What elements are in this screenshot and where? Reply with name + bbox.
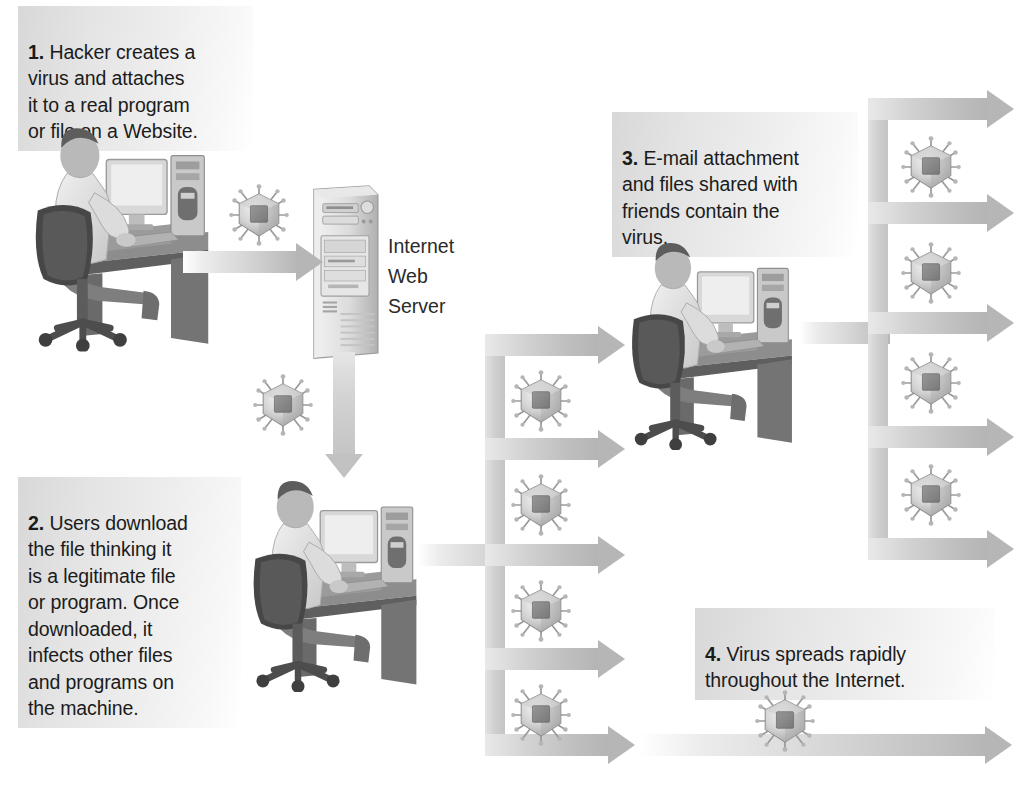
virus-middle-4	[508, 682, 574, 748]
arrow-shaft	[183, 251, 297, 273]
step-3-number: 3.	[622, 147, 638, 169]
arrow-middle-branch-1	[485, 334, 625, 356]
virus-icon	[508, 682, 574, 748]
arrow-shaft	[868, 98, 988, 120]
virus-icon	[508, 578, 574, 644]
virus-icon	[898, 134, 964, 200]
virus-server-to-downloader	[250, 372, 316, 438]
callout-step-4: 4. Virus spreads rapidly throughout the …	[695, 608, 995, 700]
virus-spread-diagram: 1. Hacker creates a virus and attaches i…	[0, 0, 1017, 800]
arrow-shaft	[333, 352, 355, 456]
arrow-right-icon	[598, 640, 625, 678]
virus-icon	[250, 372, 316, 438]
arrow-right-branch-5	[868, 538, 1014, 560]
arrow-right-branch-2	[868, 202, 1014, 224]
virus-icon	[898, 462, 964, 528]
person-at-computer-icon	[237, 470, 433, 692]
arrow-shaft	[485, 438, 599, 460]
arrow-right-icon	[598, 326, 625, 364]
virus-icon	[508, 368, 574, 434]
arrow-shaft	[485, 544, 599, 566]
step-2-number: 2.	[28, 512, 44, 534]
virus-icon	[226, 182, 292, 248]
arrow-middle-branch-4	[485, 648, 625, 670]
person-at-computer-icon	[612, 232, 812, 450]
virus-hacker-to-server	[226, 182, 292, 248]
arrow-right-icon	[598, 536, 625, 574]
arrow-internet-spread	[640, 734, 1012, 756]
arrow-right-branch-3	[868, 312, 1014, 334]
arrow-server-to-downloader	[333, 352, 355, 478]
virus-middle-2	[508, 472, 574, 538]
virus-icon	[508, 472, 574, 538]
arrow-right-icon	[296, 243, 323, 281]
arrow-shaft	[868, 312, 988, 334]
virus-icon	[898, 240, 964, 306]
workstation-hacker	[24, 116, 220, 352]
step-2-text: Users download the file thinking it is a…	[28, 512, 188, 720]
arrow-middle-branch-2	[485, 438, 625, 460]
step-1-number: 1.	[28, 41, 44, 63]
virus-right-4	[898, 462, 964, 528]
virus-right-1	[898, 134, 964, 200]
workstation-sharer	[612, 232, 812, 450]
virus-icon	[752, 688, 818, 754]
virus-middle-1	[508, 368, 574, 434]
virus-right-3	[898, 350, 964, 416]
virus-middle-3	[508, 578, 574, 644]
virus-right-2	[898, 240, 964, 306]
person-at-computer-icon	[24, 116, 220, 352]
step-4-text: Virus spreads rapidly throughout the Int…	[705, 643, 906, 692]
arrow-shaft	[485, 648, 599, 670]
arrow-down-icon	[325, 454, 363, 478]
arrow-right-branch-1	[868, 98, 1014, 120]
arrow-right-icon	[987, 418, 1014, 456]
arrow-shaft	[485, 334, 599, 356]
arrow-right-icon	[985, 726, 1012, 764]
workstation-downloader	[237, 470, 433, 692]
arrow-shaft	[868, 202, 988, 224]
arrow-right-branch-4	[868, 426, 1014, 448]
arrow-shaft	[868, 538, 988, 560]
arrow-right-icon	[598, 430, 625, 468]
arrow-right-icon	[608, 726, 635, 764]
virus-internet-spread	[752, 688, 818, 754]
arrow-right-icon	[987, 530, 1014, 568]
arrow-shaft	[868, 426, 988, 448]
arrow-right-icon	[987, 90, 1014, 128]
step-4-number: 4.	[705, 643, 721, 665]
arrow-middle-branch-3	[485, 544, 625, 566]
arrow-hacker-to-server	[183, 251, 323, 273]
virus-icon	[898, 350, 964, 416]
arrow-right-icon	[987, 304, 1014, 342]
server-label: Internet Web Server	[388, 231, 454, 321]
arrow-right-icon	[987, 194, 1014, 232]
callout-step-2: 2. Users download the file thinking it i…	[18, 477, 241, 728]
